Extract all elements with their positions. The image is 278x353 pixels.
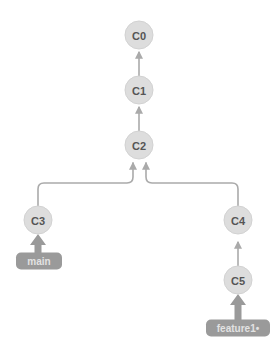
branch-badge-group: main feature1• [16, 253, 270, 337]
commit-node-c3[interactable]: C3 [24, 206, 52, 234]
commit-circle-c3[interactable] [24, 206, 52, 234]
branch-badge-feature1-rect[interactable] [206, 320, 270, 337]
branch-badge-feature1[interactable]: feature1• [206, 320, 270, 337]
commit-circle-c0[interactable] [125, 21, 153, 49]
commit-node-c5[interactable]: C5 [224, 266, 252, 294]
commit-circle-c4[interactable] [224, 206, 252, 234]
graph-canvas: C0 C1 C2 C3 C4 C5 [0, 0, 278, 353]
commit-circle-c2[interactable] [125, 131, 153, 159]
commit-node-c0[interactable]: C0 [125, 21, 153, 49]
git-commit-graph: C0 C1 C2 C3 C4 C5 [0, 0, 278, 353]
commit-circle-c1[interactable] [125, 76, 153, 104]
branch-pointer-group [30, 234, 246, 321]
commit-node-c4[interactable]: C4 [224, 206, 252, 234]
branch-badge-main-rect[interactable] [16, 253, 62, 270]
branch-badge-main[interactable]: main [16, 253, 62, 270]
edge-c4-c2 [146, 163, 238, 206]
edge-c3-c2 [38, 163, 133, 206]
branch-arrow-feature1 [230, 294, 246, 321]
commit-circle-c5[interactable] [224, 266, 252, 294]
commit-node-c2[interactable]: C2 [125, 131, 153, 159]
commit-node-c1[interactable]: C1 [125, 76, 153, 104]
